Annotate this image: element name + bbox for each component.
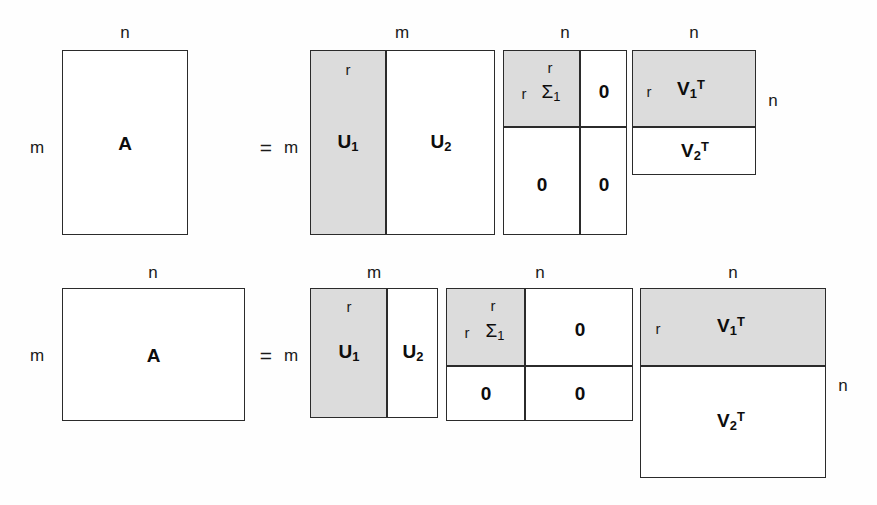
row2-u2-letter: U bbox=[403, 341, 417, 362]
row1-u1-subscript: 1 bbox=[351, 139, 358, 154]
row2-v-top-label-n: n bbox=[728, 264, 737, 281]
row1-u1-name: U1 bbox=[338, 131, 359, 154]
row2-sigma1-name: Σ1 bbox=[486, 321, 505, 344]
row1-sigma-subscript: 1 bbox=[553, 89, 560, 104]
row1-sigma-divider-vertical bbox=[579, 51, 581, 234]
row2-u1-subscript: 1 bbox=[352, 349, 359, 364]
row2-sigma-divider-horizontal bbox=[447, 365, 632, 367]
row2-v1-superscript-t: T bbox=[737, 314, 745, 329]
row1-v-top-label-n: n bbox=[689, 24, 698, 41]
row2-u-divider bbox=[386, 289, 388, 417]
row2-v-divider-horizontal bbox=[641, 365, 825, 367]
row1-v2-superscript-t: T bbox=[701, 139, 709, 154]
row1-sigma-letter: Σ bbox=[542, 81, 554, 102]
row1-sigma-zero-top-right: 0 bbox=[599, 82, 610, 101]
row2-sigma-inner-top-label-r: r bbox=[491, 298, 496, 313]
row1-matrix-sigma: r r Σ1 0 0 0 bbox=[503, 50, 627, 235]
row2-u-inner-label-r: r bbox=[347, 299, 352, 314]
row2-v2-subscript: 2 bbox=[730, 418, 737, 433]
row1-a-top-label-n: n bbox=[120, 24, 129, 41]
row2-matrix-vt: r V1T V2T bbox=[640, 288, 826, 478]
row2-sigma-zero-bottom-right: 0 bbox=[575, 384, 586, 403]
row2-sigma-zero-bottom-left: 0 bbox=[481, 384, 492, 403]
row1-u-inner-label-r: r bbox=[346, 62, 351, 77]
row1-matrix-a: A bbox=[62, 50, 188, 235]
row2-v2t-name: V2T bbox=[717, 411, 745, 434]
svd-decomposition-figure: n m A = m m r U1 U2 n r r Σ1 0 0 0 n n r… bbox=[0, 0, 877, 505]
row1-u1-letter: U bbox=[338, 130, 352, 151]
row1-v-inner-label-r: r bbox=[647, 84, 652, 99]
row2-v-right-label-n: n bbox=[838, 377, 847, 394]
row2-a-top-label-n: n bbox=[148, 264, 157, 281]
row1-v1-subscript: 1 bbox=[690, 86, 697, 101]
row1-sigma-inner-left-label-r: r bbox=[522, 86, 527, 101]
row1-v2-letter: V bbox=[681, 140, 694, 161]
row1-v-right-label-n: n bbox=[768, 92, 777, 109]
row2-u-left-label-m: m bbox=[284, 347, 298, 364]
row2-u1-name: U1 bbox=[339, 342, 360, 365]
row1-u2-letter: U bbox=[431, 130, 445, 151]
row1-sigma-zero-bottom-left: 0 bbox=[537, 175, 548, 194]
row2-u1-letter: U bbox=[339, 341, 353, 362]
row2-u2-subscript: 2 bbox=[416, 349, 423, 364]
row2-equals-sign: = bbox=[260, 345, 272, 366]
row2-sigma-letter: Σ bbox=[486, 320, 498, 341]
row2-a-name: A bbox=[147, 345, 161, 364]
row1-u-divider bbox=[385, 51, 387, 234]
row1-v1t-name: V1T bbox=[677, 79, 705, 102]
row2-matrix-sigma: r r Σ1 0 0 0 bbox=[446, 288, 633, 421]
row1-u-left-label-m: m bbox=[284, 139, 298, 156]
row1-matrix-u: r U1 U2 bbox=[310, 50, 495, 235]
row1-v-divider-horizontal bbox=[633, 126, 755, 128]
row1-u-top-label-m: m bbox=[395, 24, 409, 41]
row2-v1t-name: V1T bbox=[717, 316, 745, 339]
row1-u2-name: U2 bbox=[431, 131, 452, 154]
row2-v2-letter: V bbox=[717, 410, 730, 431]
row1-a-name: A bbox=[118, 133, 132, 152]
row2-sigma-inner-left-label-r: r bbox=[465, 325, 470, 340]
row2-u2-name: U2 bbox=[403, 342, 424, 365]
row1-matrix-vt: r V1T V2T bbox=[632, 50, 756, 175]
row1-v1-superscript-t: T bbox=[697, 77, 705, 92]
row2-v1-subscript: 1 bbox=[730, 323, 737, 338]
row1-sigma-top-label-n: n bbox=[560, 24, 569, 41]
row2-sigma-subscript: 1 bbox=[497, 328, 504, 343]
row1-sigma-zero-bottom-right: 0 bbox=[599, 175, 610, 194]
row1-u2-subscript: 2 bbox=[444, 139, 451, 154]
row1-a-left-label-m: m bbox=[30, 139, 44, 156]
row2-matrix-a: A bbox=[62, 288, 245, 421]
row2-u-top-label-m: m bbox=[367, 264, 381, 281]
row2-a-left-label-m: m bbox=[30, 347, 44, 364]
row1-sigma-inner-top-label-r: r bbox=[548, 60, 553, 75]
row1-v1-letter: V bbox=[677, 78, 690, 99]
row1-equals-sign: = bbox=[260, 137, 272, 158]
row2-v-inner-label-r: r bbox=[656, 321, 661, 336]
row1-v2t-name: V2T bbox=[681, 141, 709, 164]
row1-sigma1-name: Σ1 bbox=[542, 82, 561, 105]
row2-sigma-top-label-n: n bbox=[535, 264, 544, 281]
row2-matrix-u: r U1 U2 bbox=[310, 288, 438, 418]
row1-sigma-divider-horizontal bbox=[504, 126, 626, 128]
row2-v1-letter: V bbox=[717, 315, 730, 336]
row2-sigma-zero-top-right: 0 bbox=[575, 320, 586, 339]
row1-v2-subscript: 2 bbox=[694, 148, 701, 163]
row2-sigma-divider-vertical bbox=[524, 289, 526, 420]
row2-v2-superscript-t: T bbox=[737, 409, 745, 424]
